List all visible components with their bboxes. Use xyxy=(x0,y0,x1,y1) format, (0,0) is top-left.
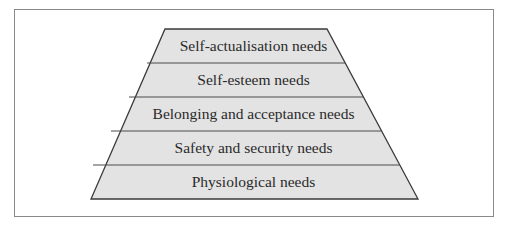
level-safety: Safety and security needs xyxy=(0,131,507,165)
level-self-actualisation: Self-actualisation needs xyxy=(0,29,507,63)
level-physiological: Physiological needs xyxy=(0,165,507,199)
level-self-esteem: Self-esteem needs xyxy=(0,63,507,97)
level-belonging: Belonging and acceptance needs xyxy=(0,97,507,131)
